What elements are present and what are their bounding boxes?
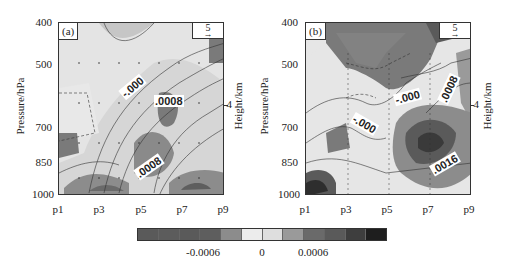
colorbar-cell: [159, 229, 180, 240]
right-y-axis-label: Height/km: [481, 66, 493, 146]
colorbar: [137, 228, 387, 241]
right-y-tick: 4: [449, 98, 479, 110]
y-tick: 700: [22, 121, 52, 133]
right-y-axis-label: Height/km: [232, 66, 244, 146]
x-tick: p1: [46, 203, 70, 215]
colorbar-cell: [138, 229, 159, 240]
x-tick: p9: [211, 203, 235, 215]
y-tick: 1000: [24, 188, 54, 200]
contour-label: .0008: [154, 95, 184, 107]
colorbar-cell: [325, 229, 346, 240]
colorbar-cell: [263, 229, 284, 240]
x-tick: p5: [375, 203, 399, 215]
x-tick: p1: [293, 203, 317, 215]
right-y-tick: 4: [202, 98, 232, 110]
colorbar-cell: [346, 229, 367, 240]
arrow-right-icon: →: [193, 32, 223, 37]
colorbar-cell: [221, 229, 242, 240]
panel-a-reference-vector: 5 →: [192, 23, 223, 39]
colorbar-tick: 0.0006: [283, 246, 343, 258]
x-tick: p7: [170, 203, 194, 215]
x-tick: p3: [87, 203, 111, 215]
colorbar-cell: [200, 229, 221, 240]
panel-b-reference-vector: 5 →: [439, 23, 470, 39]
y-tick: 850: [22, 156, 52, 168]
y-tick: 500: [22, 58, 52, 70]
colorbar-cell: [180, 229, 201, 240]
y-axis-label: Pressure/hPa: [258, 66, 270, 146]
y-tick: 400: [268, 16, 298, 28]
colorbar-tick: -0.0006: [173, 246, 233, 258]
panel-a: (a) 5 → -.000 .0008 .0008: [58, 22, 224, 195]
arrow-right-icon: →: [440, 32, 470, 37]
colorbar-cell: [283, 229, 304, 240]
y-tick: 400: [22, 16, 52, 28]
x-tick: p3: [334, 203, 358, 215]
y-tick: 1000: [270, 188, 300, 200]
x-tick: p5: [129, 203, 153, 215]
y-axis-label: Pressure/hPa: [14, 66, 26, 146]
y-tick: 500: [268, 58, 298, 70]
colorbar-cell: [304, 229, 325, 240]
panel-b: (b) 5 → -.000 -.000 .0008 .0016: [305, 22, 471, 195]
x-tick: p7: [416, 203, 440, 215]
y-tick: 700: [268, 121, 298, 133]
panel-a-label: (a): [59, 23, 78, 40]
colorbar-cell: [242, 229, 263, 240]
x-tick: p9: [457, 203, 481, 215]
y-tick: 850: [268, 156, 298, 168]
colorbar-cell: [366, 229, 386, 240]
panel-b-label: (b): [306, 23, 326, 40]
